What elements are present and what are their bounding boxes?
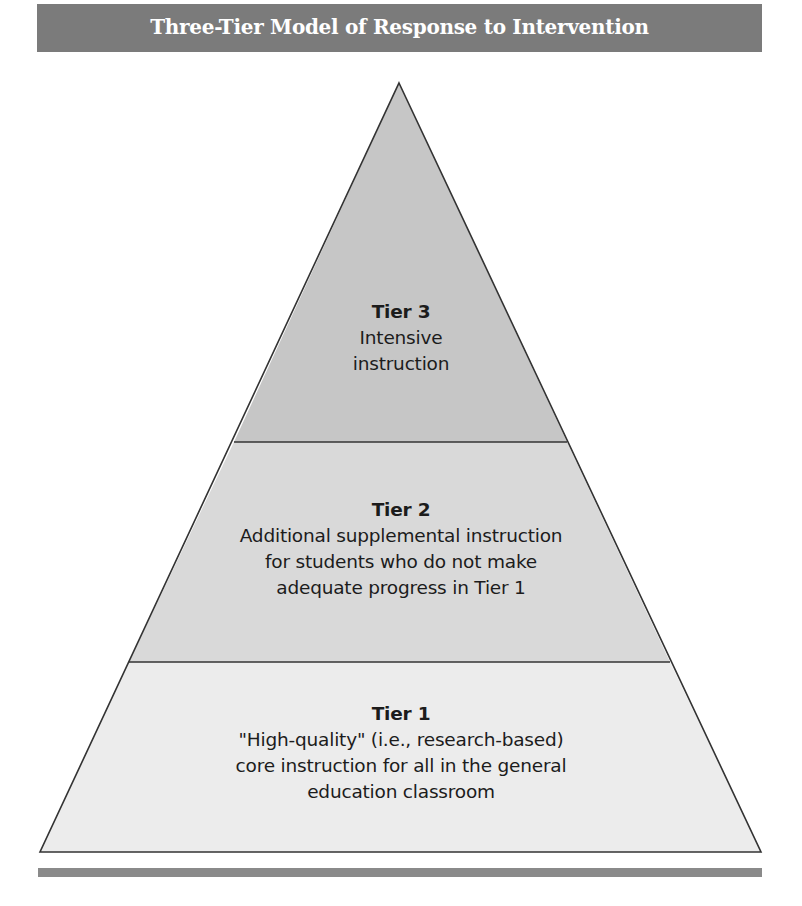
tier-2-label: Tier 2 Additional supplemental instructi… bbox=[0, 497, 802, 601]
tier-1-description-line: "High-quality" (i.e., research-based) bbox=[0, 727, 802, 753]
tier-3-region bbox=[234, 83, 567, 442]
tier-3-heading: Tier 3 bbox=[0, 299, 802, 325]
tier-3-label: Tier 3 Intensive instruction bbox=[0, 299, 802, 377]
footer-rule bbox=[38, 868, 762, 877]
tier-2-description-line: Additional supplemental instruction bbox=[0, 523, 802, 549]
tier-2-description-line: adequate progress in Tier 1 bbox=[0, 575, 802, 601]
tier-1-heading: Tier 1 bbox=[0, 701, 802, 727]
tier-1-description-line: core instruction for all in the general bbox=[0, 753, 802, 779]
tier-3-description-line: Intensive bbox=[0, 325, 802, 351]
tier-1-description-line: education classroom bbox=[0, 779, 802, 805]
tier-2-description-line: for students who do not make bbox=[0, 549, 802, 575]
tier-3-description-line: instruction bbox=[0, 351, 802, 377]
tier-2-heading: Tier 2 bbox=[0, 497, 802, 523]
tier-1-label: Tier 1 "High-quality" (i.e., research-ba… bbox=[0, 701, 802, 805]
